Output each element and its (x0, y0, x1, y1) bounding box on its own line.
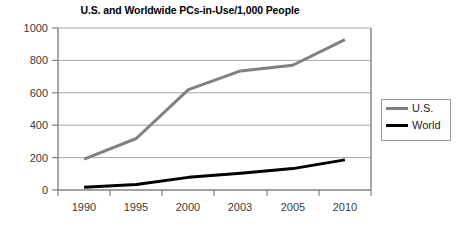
x-tick-label-2005: 2005 (281, 201, 305, 213)
legend-label-us: U.S. (412, 103, 433, 114)
legend-swatch-world (386, 124, 408, 127)
gridlines (58, 28, 371, 158)
y-tick-label-0: 0 (42, 184, 48, 196)
x-tick-label-2003: 2003 (228, 201, 252, 213)
legend-label-world: World (412, 120, 441, 131)
x-tick-label-2000: 2000 (176, 201, 200, 213)
y-tick-label-1000: 1000 (24, 22, 48, 34)
x-tick-label-2010: 2010 (333, 201, 357, 213)
series-line-world (84, 160, 345, 187)
y-tick-label-800: 800 (30, 54, 48, 66)
legend-item-us: U.S. (382, 100, 450, 117)
chart-legend: U.S. World (381, 99, 451, 141)
legend-item-world: World (382, 117, 450, 134)
y-tick-label-200: 200 (30, 152, 48, 164)
axis-lines (58, 28, 371, 190)
x-tick-label-1995: 1995 (124, 201, 148, 213)
series-line-us (84, 40, 345, 160)
legend-swatch-us (386, 107, 408, 110)
y-tick-label-400: 400 (30, 119, 48, 131)
chart-container: U.S. and Worldwide PCs-in-Use/1,000 Peop… (0, 0, 463, 226)
y-tick-label-600: 600 (30, 87, 48, 99)
x-axis-ticks (58, 190, 371, 196)
x-tick-label-1990: 1990 (72, 201, 96, 213)
y-axis-ticks (52, 28, 58, 190)
